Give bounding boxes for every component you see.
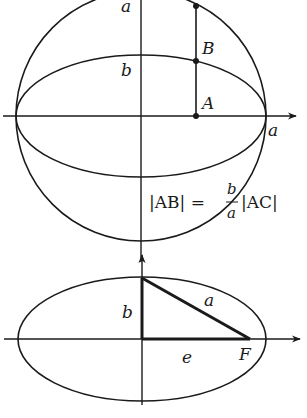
label-focus-F: F [238, 344, 252, 364]
point-C-dot [193, 3, 199, 9]
label-point-B: B [201, 38, 215, 58]
label-b-mid: b [121, 60, 132, 80]
label-e: e [182, 347, 192, 367]
formula-denominator: a [227, 204, 236, 222]
ellipse-diagram: a b B A a |AB| = b a |AC| b a e F [0, 0, 307, 418]
point-A-dot [193, 113, 199, 119]
label-a: a [204, 290, 214, 310]
formula-right: |AC| [241, 192, 278, 212]
label-a-top: a [121, 0, 131, 16]
formula-left: |AB| = [149, 192, 205, 212]
label-b: b [122, 302, 133, 322]
formula-numerator: b [227, 180, 237, 198]
bottom-figure: b a e F [4, 255, 300, 405]
ratio-formula: |AB| = b a |AC| [149, 180, 278, 222]
point-B-dot [193, 58, 199, 64]
segment-a [142, 278, 250, 339]
label-a-right: a [268, 120, 278, 140]
label-point-A: A [200, 93, 214, 113]
top-figure: a b B A a |AB| = b a |AC| [3, 0, 296, 262]
